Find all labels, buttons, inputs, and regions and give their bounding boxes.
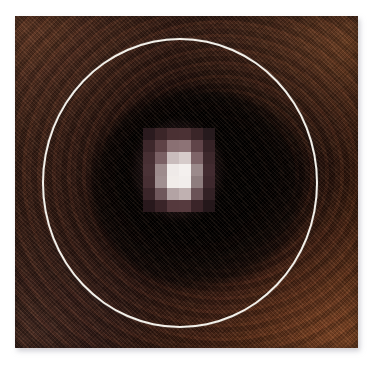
caption-zone: [15, 330, 358, 348]
figure-root: [0, 0, 380, 369]
image-plate: [15, 16, 358, 348]
aperture-circle: [42, 38, 318, 328]
